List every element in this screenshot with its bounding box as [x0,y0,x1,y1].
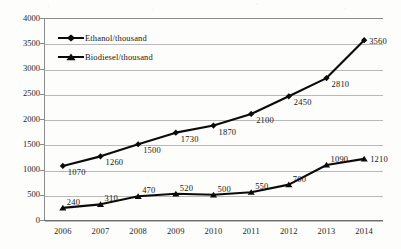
x-tick-label: 2008 [118,226,158,236]
x-tick-label: 2006 [43,226,83,236]
legend: Ethanol/thousand Biodiesel/thousand [58,28,153,66]
biodiesel-data-label: 500 [218,184,231,194]
legend-item-biodiesel[interactable]: Biodiesel/thousand [58,47,153,66]
biodiesel-data-label: 1090 [331,154,349,164]
biodiesel-data-label: 310 [105,193,118,203]
biodiesel-data-label: 1210 [370,154,388,164]
x-tick-label: 2010 [194,226,234,236]
x-tick-label: 2009 [156,226,196,236]
ethanol-data-label: 1070 [68,167,86,177]
biodiesel-data-label: 470 [142,185,155,195]
ethanol-data-point [173,130,179,136]
x-tick-label: 2007 [81,226,121,236]
ethanol-data-point [97,153,103,159]
biodiesel-data-label: 550 [255,181,268,191]
biodiesel-data-label: 700 [293,174,306,184]
legend-label-biodiesel: Biodiesel/thousand [85,52,153,62]
line-chart: 05001000150020002500300035004000 1070126… [0,0,401,249]
ethanol-data-point [60,163,66,169]
ethanol-data-label: 1500 [143,145,161,155]
x-tick-label: 2011 [231,226,271,236]
ethanol-data-label: 2450 [294,97,312,107]
biodiesel-data-label: 520 [180,183,193,193]
ethanol-data-label: 3560 [369,36,387,46]
ethanol-data-point [135,141,141,147]
ethanol-data-label: 1730 [181,134,199,144]
x-tick-label: 2012 [269,226,309,236]
x-tick-label: 2013 [307,226,347,236]
triangle-marker-icon [58,52,84,62]
biodiesel-data-label: 240 [67,197,80,207]
legend-label-ethanol: Ethanol/thousand [85,33,147,43]
diamond-marker-icon [58,33,84,43]
ethanol-data-label: 1260 [106,157,124,167]
ethanol-data-label: 2100 [256,115,274,125]
x-tick-label: 2014 [344,226,384,236]
ethanol-data-label: 2810 [332,79,350,89]
ethanol-data-label: 1870 [219,127,237,137]
ethanol-data-point [210,122,216,128]
legend-item-ethanol[interactable]: Ethanol/thousand [58,28,153,47]
